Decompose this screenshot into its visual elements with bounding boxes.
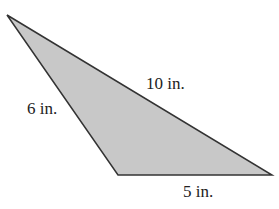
side-label-left: 6 in. [27,99,57,118]
side-label-hypotenuse: 10 in. [146,74,185,93]
triangle-diagram: 6 in. 10 in. 5 in. [0,0,279,209]
triangle-shape [7,15,272,175]
side-label-bottom: 5 in. [183,182,213,201]
